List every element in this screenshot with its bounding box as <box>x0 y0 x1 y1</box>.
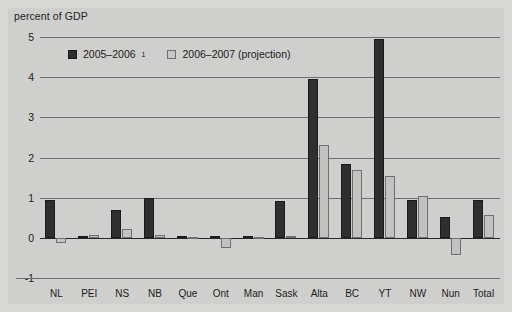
x-tick-label-sask: Sask <box>275 288 297 299</box>
bar-yt-series-2 <box>385 176 395 238</box>
bar-ns-series-1 <box>111 210 121 238</box>
x-tick-label-bc: BC <box>345 288 359 299</box>
x-tick-label-nw: NW <box>410 288 427 299</box>
bar-nw-series-2 <box>418 196 428 238</box>
x-tick-label-nb: NB <box>148 288 162 299</box>
bar-group-ns: NS <box>106 37 139 278</box>
bar-man-series-1 <box>243 236 253 238</box>
bar-que-series-2 <box>188 237 198 239</box>
bar-group-nl: NL <box>40 37 73 278</box>
x-tick-label-ont: Ont <box>213 288 229 299</box>
bar-nl-series-1 <box>45 200 55 237</box>
y-tick-label-4: 4 <box>28 71 34 83</box>
bar-total-series-2 <box>484 215 494 238</box>
bar-sask-series-1 <box>275 201 285 238</box>
x-tick-label-nl: NL <box>50 288 63 299</box>
bar-que-series-1 <box>177 236 187 238</box>
y-tick-label-5: 5 <box>28 31 34 43</box>
bar-bc-series-2 <box>352 170 362 237</box>
bar-group-pei: PEI <box>73 37 106 278</box>
bar-nl-series-2 <box>56 238 66 244</box>
bar-nb-series-1 <box>144 198 154 237</box>
bar-group-sask: Sask <box>270 37 303 278</box>
bar-nb-series-2 <box>155 235 165 238</box>
plot-area: 543210-1NLPEINSNBQueOntManSaskAltaBCYTNW… <box>40 37 500 278</box>
y-axis-title: percent of GDP <box>14 10 88 22</box>
bar-ont-series-1 <box>210 236 220 238</box>
y-tick-label-1: 1 <box>28 192 34 204</box>
x-tick-label-pei: PEI <box>81 288 97 299</box>
bar-pei-series-1 <box>78 236 88 238</box>
x-tick-label-ns: NS <box>115 288 129 299</box>
x-tick-label-total: Total <box>473 288 494 299</box>
bar-yt-series-1 <box>374 39 384 238</box>
bar-group-nb: NB <box>139 37 172 278</box>
bar-group-ont: Ont <box>204 37 237 278</box>
bar-group-total: Total <box>467 37 500 278</box>
y-tick-label-3: 3 <box>28 111 34 123</box>
bar-total-series-1 <box>473 200 483 238</box>
x-tick-label-que: Que <box>178 288 197 299</box>
bar-nw-series-1 <box>407 200 417 237</box>
bar-group-nw: NW <box>401 37 434 278</box>
x-tick-label-alta: Alta <box>311 288 328 299</box>
bar-nun-series-1 <box>440 217 450 238</box>
bar-group-man: Man <box>237 37 270 278</box>
y-tick-label-0: 0 <box>28 232 34 244</box>
bar-nun-series-2 <box>451 238 461 255</box>
bar-man-series-2 <box>254 237 264 239</box>
chart-screenshot: percent of GDP 2005–20061 2006–2007 (pro… <box>0 0 512 312</box>
bar-pei-series-2 <box>89 235 99 238</box>
bar-alta-series-1 <box>308 79 318 238</box>
x-tick-label-yt: YT <box>379 288 392 299</box>
x-tick-label-nun: Nun <box>442 288 460 299</box>
bottom-rule <box>16 278 496 279</box>
bar-group-que: Que <box>171 37 204 278</box>
bar-group-bc: BC <box>336 37 369 278</box>
bar-sask-series-2 <box>286 236 296 238</box>
bar-group-alta: Alta <box>303 37 336 278</box>
bar-ont-series-2 <box>221 238 231 248</box>
y-tick-label-2: 2 <box>28 152 34 164</box>
bar-group-nun: Nun <box>434 37 467 278</box>
bar-alta-series-2 <box>319 145 329 237</box>
x-tick-label-man: Man <box>244 288 263 299</box>
bar-group-yt: YT <box>369 37 402 278</box>
bar-bc-series-1 <box>341 164 351 238</box>
bar-ns-series-2 <box>122 229 132 238</box>
